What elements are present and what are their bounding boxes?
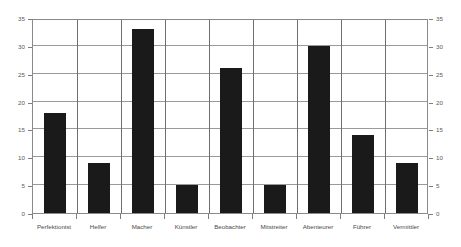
- y-tick-label-right-10: 10: [436, 155, 443, 161]
- y-tick-label-left-5: 5: [22, 183, 25, 189]
- x-tick-mark-4: [208, 214, 209, 219]
- bar-macher[interactable]: [132, 29, 154, 213]
- x-tick-mark-1: [76, 214, 77, 219]
- y-tick-mark-left-35: [28, 19, 32, 20]
- y-tick-label-right-0: 0: [436, 211, 439, 217]
- bars-layer: [33, 20, 427, 213]
- bar-cell: [341, 20, 385, 213]
- bar-cell: [253, 20, 297, 213]
- bar-vermittler[interactable]: [396, 163, 418, 213]
- y-tick-mark-left-5: [28, 186, 32, 187]
- x-tick-mark-2: [120, 214, 121, 219]
- x-tick-mark-8: [384, 214, 385, 219]
- bar-cell: [165, 20, 209, 213]
- y-tick-label-right-35: 35: [436, 16, 443, 22]
- y-tick-mark-left-10: [28, 158, 32, 159]
- bar-führer[interactable]: [352, 135, 374, 213]
- y-tick-label-left-0: 0: [22, 211, 25, 217]
- bar-künstler[interactable]: [176, 185, 198, 213]
- x-axis-label-abenteurer: Abenteurer: [303, 224, 334, 230]
- x-axis-label-helfer: Helfer: [90, 224, 107, 230]
- y-tick-label-right-5: 5: [436, 183, 439, 189]
- x-tick-mark-5: [252, 214, 253, 219]
- y-tick-label-left-20: 20: [18, 100, 25, 106]
- bar-perfektionist[interactable]: [44, 113, 66, 213]
- y-tick-mark-left-25: [28, 75, 32, 76]
- x-axis-label-vermittler: Vermittler: [393, 224, 419, 230]
- y-tick-label-right-30: 30: [436, 44, 443, 50]
- y-tick-mark-right-35: [429, 19, 433, 20]
- bar-cell: [385, 20, 429, 213]
- bar-cell: [209, 20, 253, 213]
- y-tick-label-left-10: 10: [18, 155, 25, 161]
- y-tick-mark-right-15: [429, 130, 433, 131]
- x-tick-mark-6: [296, 214, 297, 219]
- bar-mitstreiter[interactable]: [264, 185, 286, 213]
- y-tick-mark-right-30: [429, 47, 433, 48]
- plot-area: [32, 19, 428, 214]
- x-tick-mark-7: [340, 214, 341, 219]
- x-axis-label-beobachter: Beobachter: [214, 224, 246, 230]
- bar-cell: [297, 20, 341, 213]
- bar-cell: [121, 20, 165, 213]
- y-tick-mark-left-30: [28, 47, 32, 48]
- y-tick-label-right-15: 15: [436, 127, 443, 133]
- y-tick-mark-right-0: [429, 214, 433, 215]
- y-tick-label-right-25: 25: [436, 72, 443, 78]
- x-axis-label-mitstreiter: Mitstreiter: [260, 224, 287, 230]
- x-axis-label-künstler: Künstler: [175, 224, 198, 230]
- x-tick-mark-9: [428, 214, 429, 219]
- y-tick-label-left-35: 35: [18, 16, 25, 22]
- y-tick-label-left-15: 15: [18, 127, 25, 133]
- bar-chart: 05101520253035 05101520253035 Perfektion…: [0, 0, 461, 247]
- y-tick-label-right-20: 20: [436, 100, 443, 106]
- x-axis-label-macher: Macher: [132, 224, 153, 230]
- y-tick-mark-right-10: [429, 158, 433, 159]
- y-tick-mark-right-20: [429, 103, 433, 104]
- x-axis-label-perfektionist: Perfektionist: [37, 224, 71, 230]
- x-axis-label-führer: Führer: [353, 224, 371, 230]
- bar-cell: [33, 20, 77, 213]
- x-tick-mark-3: [164, 214, 165, 219]
- y-tick-label-left-25: 25: [18, 72, 25, 78]
- y-tick-label-left-30: 30: [18, 44, 25, 50]
- bar-abenteurer[interactable]: [308, 46, 330, 213]
- y-tick-mark-left-20: [28, 103, 32, 104]
- bar-cell: [77, 20, 121, 213]
- bar-helfer[interactable]: [88, 163, 110, 213]
- y-tick-mark-right-25: [429, 75, 433, 76]
- x-tick-mark-0: [32, 214, 33, 219]
- y-tick-mark-right-5: [429, 186, 433, 187]
- y-tick-mark-left-15: [28, 130, 32, 131]
- bar-beobachter[interactable]: [220, 68, 242, 213]
